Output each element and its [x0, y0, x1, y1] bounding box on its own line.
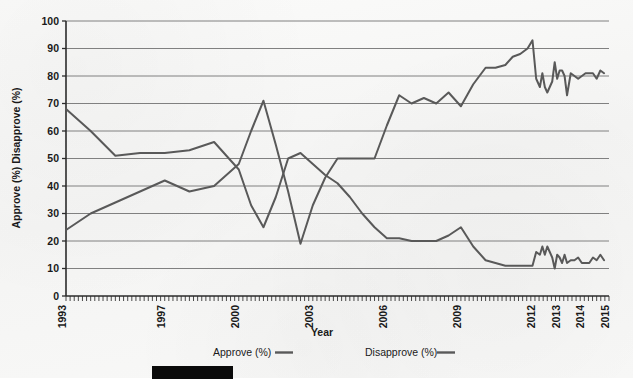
x-tick-labels: 1993199720002003200620092012201320142015	[56, 305, 611, 329]
y-tick-label: 50	[47, 152, 59, 164]
y-tick-label: 100	[41, 15, 59, 27]
series-lines	[66, 40, 604, 268]
x-tick-label: 2006	[377, 305, 389, 329]
y-tick-label: 0	[53, 290, 59, 302]
y-axis-title: Approve (%) Disapprove (%)	[10, 87, 22, 228]
y-tick-label: 70	[47, 97, 59, 109]
x-tick-label: 2003	[303, 305, 315, 329]
y-tick-label: 20	[47, 235, 59, 247]
y-tick-label: 40	[47, 180, 59, 192]
x-tick-label: 2014	[574, 305, 586, 329]
y-tick-label: 30	[47, 207, 59, 219]
x-tick-label: 2015	[599, 305, 611, 329]
x-tick-label: 2012	[525, 305, 537, 329]
y-tick-label: 90	[47, 42, 59, 54]
x-axis-title: Year	[311, 326, 333, 338]
legend-label: Approve (%)	[213, 346, 271, 358]
y-tick-label: 80	[47, 70, 59, 82]
x-tick-label: 2013	[550, 305, 562, 329]
y-tick-label: 10	[47, 262, 59, 274]
legend: Approve (%)Disapprove (%)	[213, 346, 455, 358]
redaction-bar	[152, 366, 233, 379]
x-tick-label: 1997	[155, 305, 167, 329]
x-tick-label: 1993	[56, 305, 68, 329]
x-tick-label: 2000	[229, 305, 241, 329]
legend-label: Disapprove (%)	[365, 346, 437, 358]
x-tick-label: 2009	[451, 305, 463, 329]
y-tick-labels: 0102030405060708090100	[41, 15, 59, 302]
y-tick-label: 60	[47, 125, 59, 137]
